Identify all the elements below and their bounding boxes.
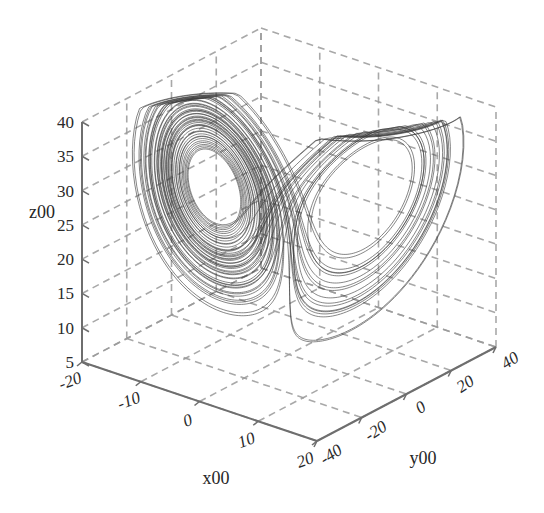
z-axis-title: z00: [29, 202, 55, 222]
z-tick-label: 25: [57, 216, 74, 235]
axis-titles: z00x00y00: [29, 202, 437, 488]
y-axis-title: y00: [410, 448, 437, 468]
z-tick-label: 40: [57, 113, 74, 132]
y-tick-label: 20: [453, 371, 478, 396]
x-tick-label: 0: [180, 410, 195, 431]
y-tick-label: -20: [361, 416, 391, 445]
x-tick-label: 10: [235, 428, 258, 452]
floor-grid-line-y: [127, 339, 362, 418]
z-tick-mark: [82, 328, 89, 332]
x-tick-mark: [136, 382, 141, 386]
lorenz-3d-plot: 510152025303540-20-1001020-40-2002040 z0…: [0, 0, 544, 513]
x-tick-mark: [195, 402, 200, 406]
z-tick-mark: [82, 225, 89, 229]
x-tick-mark: [253, 421, 258, 425]
floor-grid-line-y: [216, 292, 451, 371]
lorenz-attractor-figure: 510152025303540-20-1001020-40-2002040 z0…: [0, 0, 544, 513]
y-tick-label: -40: [316, 440, 346, 469]
z-tick-mark: [82, 293, 89, 297]
floor-grid-line-y: [172, 315, 407, 394]
x-tick-label: 20: [294, 448, 317, 472]
y-tick-label: 40: [498, 348, 523, 373]
z-tick-label: 35: [57, 147, 74, 166]
x-axis-title: x00: [203, 468, 230, 488]
z-tick-mark: [82, 156, 89, 160]
z-tick-label: 15: [57, 284, 74, 303]
z-tick-mark: [82, 259, 89, 263]
y-tick-label: 0: [412, 397, 430, 418]
x-tick-label: -10: [115, 388, 143, 414]
z-tick-label: 10: [57, 319, 74, 338]
z-tick-mark: [82, 122, 89, 126]
x-tick-label: -20: [56, 368, 84, 394]
z-tick-mark: [82, 191, 89, 195]
z-tick-label: 30: [57, 182, 74, 201]
z-tick-label: 20: [57, 250, 74, 269]
x-tick-mark: [77, 362, 82, 366]
